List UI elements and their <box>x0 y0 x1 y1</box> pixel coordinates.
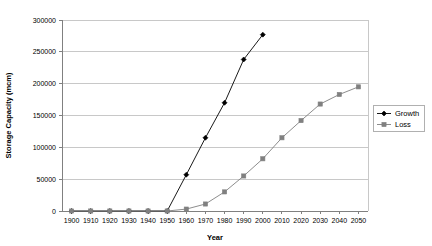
chart-legend: GrowthLoss <box>0 0 432 246</box>
legend-label-loss: Loss <box>395 120 411 129</box>
legend-marker-loss <box>382 122 386 126</box>
chart-container: 0500001000001500002000002500003000001900… <box>0 0 432 246</box>
legend-label-growth: Growth <box>395 109 419 118</box>
